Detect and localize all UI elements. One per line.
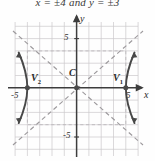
hyperbola-left-branch xyxy=(19,53,28,88)
graph-canvas xyxy=(0,0,155,161)
x-axis-label: x xyxy=(144,90,148,100)
x-tick-negative-label: -5 xyxy=(11,91,19,100)
vertex-left-dot xyxy=(25,85,30,90)
vertex-right-label: V1 xyxy=(113,73,123,86)
y-axis-arrow xyxy=(74,16,79,22)
y-tick-positive-label: 5 xyxy=(64,33,69,42)
hyperbola-figure: x = ±4 and y = ±3 xyxy=(0,0,155,161)
hyperbola-right-branch xyxy=(126,53,135,88)
x-tick-positive-label: 5 xyxy=(126,91,131,100)
y-axis-label: y xyxy=(80,14,84,24)
hyperbola-left-branch-lower xyxy=(19,88,28,123)
x-axis-arrow xyxy=(137,85,143,90)
vertex-left-label: V2 xyxy=(31,73,41,86)
center-dot xyxy=(74,85,79,90)
center-label: C xyxy=(69,68,76,78)
y-tick-negative-label: -5 xyxy=(63,131,71,140)
